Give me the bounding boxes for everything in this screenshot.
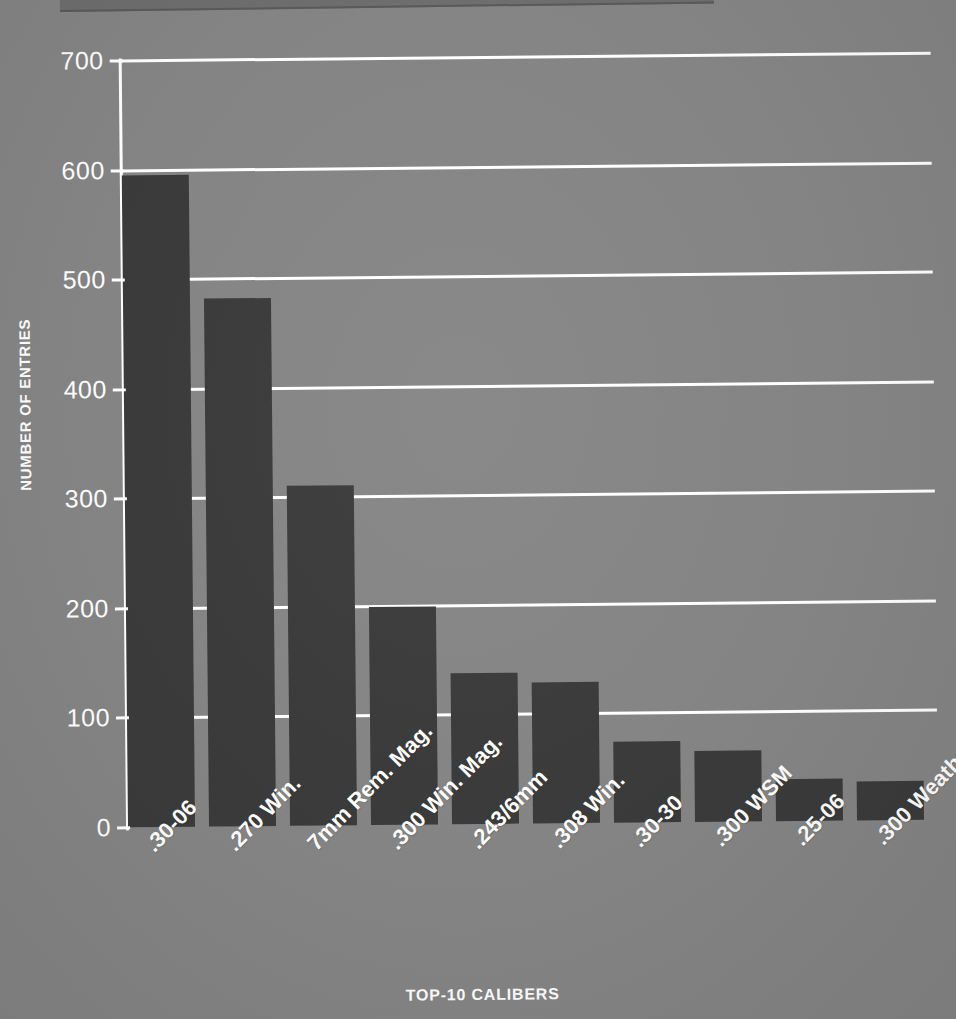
y-axis-tick <box>112 279 125 282</box>
x-axis-tick-label: .30-06 <box>140 795 202 858</box>
bar-chart: 0100200300400500600700 NUMBER OF ENTRIES… <box>0 0 956 1019</box>
x-axis-tick-label: .25-06 <box>788 789 850 852</box>
x-axis-tick-labels: .30-06.270 Win.7mm Rem. Mag..300 Win. Ma… <box>0 0 956 1019</box>
x-axis-tick-label: .300 Weatherby <box>869 717 956 850</box>
y-axis-tick <box>117 826 130 829</box>
y-axis-tick <box>110 59 123 62</box>
y-axis-tick <box>116 717 129 720</box>
y-axis-tick <box>114 498 127 501</box>
y-axis-tick <box>115 607 128 610</box>
x-axis-tick-label: .270 Win. <box>221 771 306 857</box>
y-axis-tick <box>113 388 126 391</box>
y-axis-tick <box>111 169 124 172</box>
x-axis-tick-label: .30-30 <box>626 790 688 853</box>
x-axis-tick-label: .300 WSM <box>707 761 797 853</box>
x-axis-tick-label: .308 Win. <box>545 767 630 853</box>
